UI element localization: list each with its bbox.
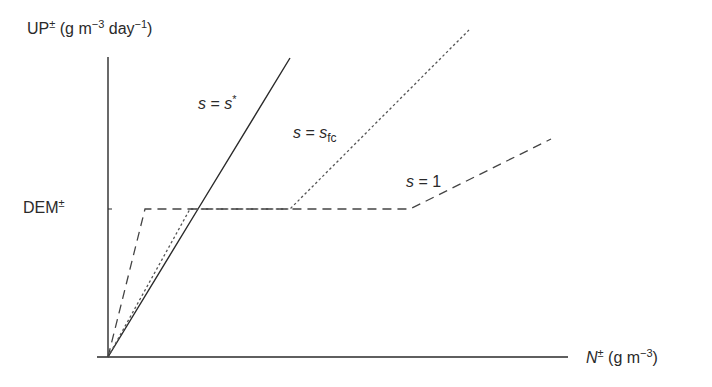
y-axis-label: UP± (g m−3 day−1) [27,20,152,38]
dem-label: DEM± [23,199,65,217]
curve-s-fc [108,30,469,357]
diagram-canvas [0,0,712,387]
label-s-star: s = s* [198,95,237,113]
x-axis-label: N± (g m−3) [586,349,658,367]
label-s-one: s = 1 [406,173,441,191]
label-s-fc: s = sfc [293,124,337,142]
